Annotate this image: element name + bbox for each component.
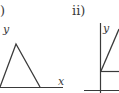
diagram: ) y x ii) y <box>0 0 119 93</box>
panel-i-label: ) <box>0 4 5 17</box>
panel-i-y-axis-label: y <box>3 24 9 35</box>
panel-i-graphics <box>0 44 63 88</box>
panel-ii-graphics <box>84 23 119 93</box>
panel-ii-diagonal-line <box>101 29 119 71</box>
panel-ii-label: ii) <box>72 4 85 17</box>
panel-i-x-axis-label: x <box>58 76 64 87</box>
panel-i-triangle <box>0 44 40 87</box>
panel-ii-y-axis-label: y <box>103 23 109 34</box>
